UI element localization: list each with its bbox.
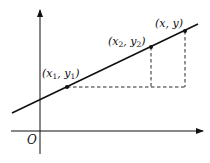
point-x-y (183, 29, 187, 33)
label-x-y: (x, y) (155, 17, 183, 30)
line-diagram: O (x1, y1) (x2, y2) (x, y) (0, 0, 210, 163)
origin-label: O (27, 133, 37, 147)
label-x2-y2: (x2, y2) (108, 35, 146, 49)
point-x2-y2 (149, 45, 153, 49)
point-x1-y1 (65, 85, 69, 89)
label-x1-y1: (x1, y1) (42, 67, 80, 81)
